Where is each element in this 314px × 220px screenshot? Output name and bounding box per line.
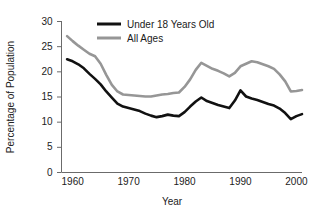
x-tick-label: 1980 <box>173 176 196 187</box>
y-tick-label: 30 <box>41 16 53 27</box>
line-chart: 051015202530 19601970198019902000 Percen… <box>0 0 314 220</box>
x-tick-label: 1970 <box>117 176 140 187</box>
x-tick-label: 1960 <box>62 176 85 187</box>
legend-label: Under 18 Years Old <box>127 19 214 30</box>
chart-figure: 051015202530 19601970198019902000 Percen… <box>0 0 314 220</box>
y-tick-label: 0 <box>47 167 53 178</box>
y-tick-label: 25 <box>41 41 53 52</box>
legend-label: All Ages <box>127 33 163 44</box>
y-tick-label: 5 <box>47 141 53 152</box>
x-tick-label: 1990 <box>229 176 252 187</box>
y-tick-label: 15 <box>41 91 53 102</box>
x-tick-label: 2000 <box>285 176 308 187</box>
y-axis-title: Percentage of Population <box>5 41 16 153</box>
y-tick-label: 20 <box>41 66 53 77</box>
y-tick-label: 10 <box>41 116 53 127</box>
x-axis-title: Year <box>162 196 183 207</box>
